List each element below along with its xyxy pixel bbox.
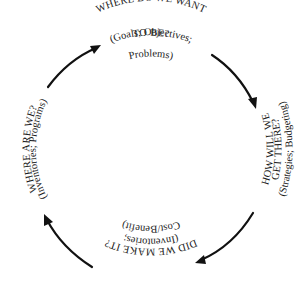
- arrowhead-icon: [248, 97, 257, 109]
- stage-top: WHERE DO WE WANT TO BE? (Goals; Objectiv…: [94, 0, 208, 62]
- stage-top-title-line1: WHERE DO WE WANT: [94, 0, 208, 15]
- arrow-right-to-bottom: [195, 213, 253, 264]
- stage-top-sub-line1: (Goals; Objectives;: [108, 26, 194, 45]
- arrow-curve: [48, 48, 96, 87]
- arrow-curve: [47, 220, 92, 267]
- svg-text:(Goals; Objectives;: (Goals; Objectives;: [108, 26, 194, 45]
- arrow-bottom-to-left: [44, 214, 92, 267]
- svg-text:Problems): Problems): [128, 48, 175, 63]
- arrow-top-to-right: [212, 55, 257, 109]
- stage-top-sub-line2: Problems): [128, 48, 175, 63]
- svg-text:Cost/Benefit): Cost/Benefit): [120, 218, 181, 235]
- stage-bottom-sub-line2: Cost/Benefit): [120, 218, 181, 235]
- svg-text:WHERE DO WE WANT: WHERE DO WE WANT: [94, 0, 208, 15]
- stage-left: WHERE ARE WE? (Inventories; Programs): [20, 96, 50, 201]
- stage-bottom: DID WE MAKE IT? (Inventories; Cost/Benef…: [103, 218, 199, 257]
- arrow-left-to-top: [48, 45, 101, 87]
- arrow-curve: [212, 55, 253, 102]
- planning-cycle-diagram: WHERE DO WE WANT TO BE? (Goals; Objectiv…: [0, 0, 302, 298]
- stage-right: HOW WILL WE GET THERE? (Strategies; Budg…: [259, 100, 294, 198]
- arrow-curve: [201, 213, 253, 260]
- arrowhead-icon: [195, 255, 206, 264]
